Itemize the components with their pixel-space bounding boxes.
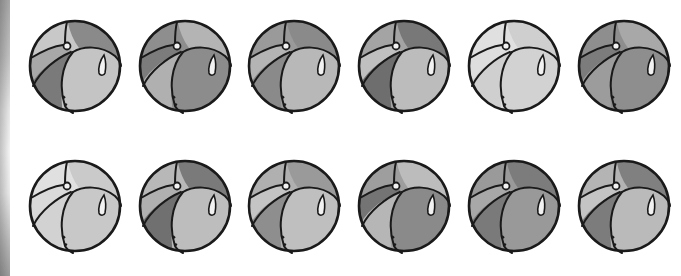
beach-ball-icon xyxy=(137,158,233,254)
beach-ball-r1-c2 xyxy=(137,18,233,114)
beach-ball-r2-c3 xyxy=(246,158,342,254)
beach-ball-r2-c2 xyxy=(137,158,233,254)
beach-ball-r2-c5 xyxy=(466,158,562,254)
beach-ball-r2-c4 xyxy=(356,158,452,254)
beach-ball-icon xyxy=(356,158,452,254)
beach-ball-r1-c6 xyxy=(576,18,672,114)
beach-ball-r1-c3 xyxy=(246,18,342,114)
beach-ball-icon xyxy=(576,158,672,254)
beach-ball-icon xyxy=(466,18,562,114)
beach-ball-r1-c1 xyxy=(27,18,123,114)
beach-ball-r2-c1 xyxy=(27,158,123,254)
beach-ball-icon xyxy=(356,18,452,114)
beach-ball-icon xyxy=(246,18,342,114)
beach-ball-icon xyxy=(27,18,123,114)
beach-ball-icon xyxy=(576,18,672,114)
beach-ball-r1-c5 xyxy=(466,18,562,114)
beach-ball-icon xyxy=(466,158,562,254)
beach-ball-r1-c4 xyxy=(356,18,452,114)
beach-ball-icon xyxy=(137,18,233,114)
beach-ball-icon xyxy=(246,158,342,254)
beach-ball-grid xyxy=(0,0,681,276)
beach-ball-icon xyxy=(27,158,123,254)
beach-ball-r2-c6 xyxy=(576,158,672,254)
